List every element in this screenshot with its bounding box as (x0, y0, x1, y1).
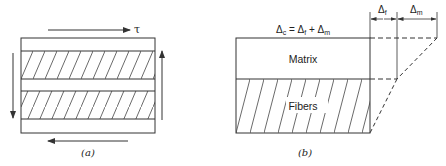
hatched-fiber-layer-2 (21, 91, 155, 119)
delta-f-label: Δf (378, 4, 387, 16)
hatched-fiber-layer-1 (21, 51, 155, 79)
deformed-fiber-side (370, 79, 397, 133)
deformation-equation: Δc = Δf + Δm (276, 24, 330, 36)
panel-a: τ (a) (13, 23, 162, 158)
panel-a-caption: (a) (81, 147, 95, 158)
matrix-label: Matrix (289, 53, 318, 65)
deformed-matrix-side (397, 38, 437, 79)
diagram-canvas: τ (a) Matrix Fibers Δf Δm (0, 0, 446, 166)
delta-m-label: Δm (410, 4, 423, 16)
fibers-label: Fibers (288, 100, 317, 112)
panel-b-caption: (b) (298, 147, 312, 158)
shear-stress-label: τ (134, 23, 140, 36)
panel-b: Matrix Fibers Δf Δm Δc = Δf + Δm (b) (236, 4, 437, 158)
